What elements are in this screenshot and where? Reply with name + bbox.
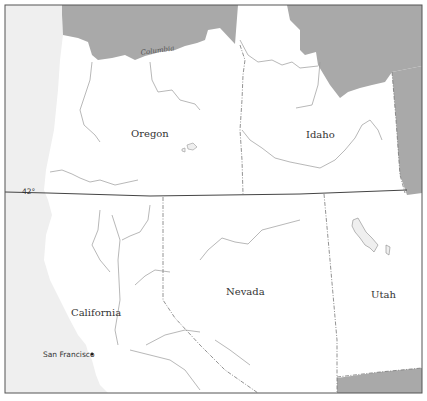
state-label-nevada: Nevada [226, 286, 265, 297]
state-label-california: California [71, 307, 121, 318]
parallel-42-label: 42° [22, 187, 36, 196]
state-label-idaho: Idaho [306, 129, 335, 140]
lake [182, 148, 185, 152]
utah-lake [386, 245, 390, 255]
city-label-san-francisco: San Francisco [43, 350, 95, 359]
map-canvas: 42° Columbia Oregon Idaho California Nev… [0, 0, 427, 401]
state-label-oregon: Oregon [131, 128, 169, 139]
state-label-utah: Utah [371, 289, 396, 300]
